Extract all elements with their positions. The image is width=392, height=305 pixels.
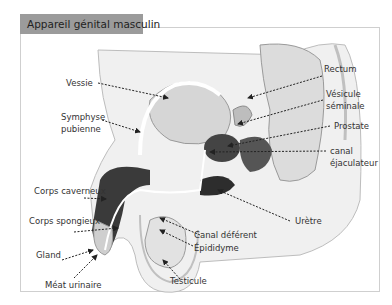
- label-symphyse-1: Symphyse: [61, 112, 105, 123]
- label-corps-spongieux: Corps spongieux: [29, 216, 100, 227]
- label-canal-ejac-2: éjaculateur: [330, 158, 378, 169]
- label-epididyme: Épididyme: [194, 243, 239, 254]
- label-uretre: Urètre: [295, 216, 322, 227]
- label-canal-ejac-1: canal: [330, 146, 353, 157]
- label-corps-caverneux: Corps caverneux: [34, 186, 106, 197]
- label-rectum: Rectum: [324, 64, 356, 75]
- label-canal-deferent: Canal déférent: [194, 230, 257, 241]
- label-vessie: Vessie: [66, 78, 93, 89]
- label-vesicule-1: Vésicule: [326, 89, 361, 100]
- label-symphyse-2: pubienne: [61, 124, 101, 135]
- label-vesicule-2: séminale: [326, 101, 365, 112]
- label-testicule: Testicule: [170, 276, 207, 287]
- label-prostate: Prostate: [334, 121, 369, 132]
- label-meat-urinaire: Méat urinaire: [45, 280, 102, 291]
- label-gland: Gland: [36, 250, 61, 261]
